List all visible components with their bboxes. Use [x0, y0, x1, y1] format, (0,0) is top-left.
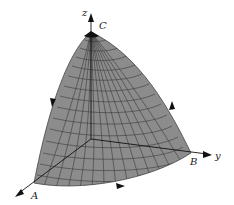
point-b-label: B — [189, 156, 197, 167]
sphere-surface-patch — [34, 32, 191, 186]
apex-point-c — [84, 31, 99, 38]
orientation-arrow-bottom-right-icon — [116, 183, 125, 189]
y-axis-arrowhead-icon — [203, 151, 212, 158]
point-a-label: A — [30, 190, 38, 201]
surface-diagram: z y C A B — [0, 0, 234, 205]
orientation-arrow-right-up-icon — [169, 101, 175, 110]
z-axis-label: z — [81, 7, 88, 18]
y-axis-label: y — [214, 150, 221, 161]
point-c-label: C — [99, 20, 107, 31]
z-axis-arrowhead-icon — [88, 13, 94, 22]
